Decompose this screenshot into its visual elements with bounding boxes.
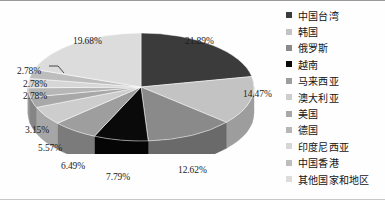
legend-item-label: 中国台湾 xyxy=(298,8,339,23)
chart-legend: 中国台湾韩国俄罗斯越南马来西亚澳大利亚美国德国印度尼西亚中国香港其他国家和地区 xyxy=(277,7,381,187)
legend-item-label: 澳大利亚 xyxy=(298,90,339,105)
legend-swatch-icon xyxy=(286,78,292,84)
legend-item[interactable]: 韩国 xyxy=(277,23,381,39)
chart-frame: 21.89%14.47%12.62%7.79%6.49%5.57%3.15%2.… xyxy=(0,0,385,200)
legend-item[interactable]: 马来西亚 xyxy=(277,73,381,89)
legend-item[interactable]: 澳大利亚 xyxy=(277,89,381,105)
legend-item-label: 德国 xyxy=(298,122,318,137)
legend-item[interactable]: 俄罗斯 xyxy=(277,40,381,56)
legend-item[interactable]: 中国香港 xyxy=(277,155,381,171)
pct-label-russia: 12.62% xyxy=(178,165,207,175)
legend-item[interactable]: 德国 xyxy=(277,122,381,138)
legend-swatch-icon xyxy=(286,61,292,67)
legend-item[interactable]: 印度尼西亚 xyxy=(277,138,381,154)
legend-item-label: 俄罗斯 xyxy=(298,40,329,55)
legend-item[interactable]: 越南 xyxy=(277,56,381,72)
legend-swatch-icon xyxy=(286,29,292,35)
legend-item[interactable]: 中国台湾 xyxy=(277,7,381,23)
legend-item-label: 韩国 xyxy=(298,24,318,39)
pct-label-others: 19.68% xyxy=(73,36,102,46)
legend-item-label: 越南 xyxy=(298,57,318,72)
pie-chart-area: 21.89%14.47%12.62%7.79%6.49%5.57%3.15%2.… xyxy=(0,3,278,199)
pct-label-hongkong: 2.78% xyxy=(17,66,41,76)
legend-swatch-icon xyxy=(286,45,292,51)
legend-swatch-icon xyxy=(286,143,292,149)
legend-item[interactable]: 其他国家和地区 xyxy=(277,171,381,187)
pct-label-vietnam: 7.79% xyxy=(106,172,130,182)
legend-item[interactable]: 美国 xyxy=(277,105,381,121)
pie-top-faces xyxy=(28,33,254,141)
pct-label-australia: 5.57% xyxy=(38,143,62,153)
pct-label-taiwan: 21.89% xyxy=(185,36,214,46)
pie-3d-graphic xyxy=(26,29,256,154)
pct-label-usa: 3.15% xyxy=(25,125,49,135)
legend-item-label: 印度尼西亚 xyxy=(298,139,349,154)
legend-swatch-icon xyxy=(286,94,292,100)
pct-label-malaysia: 6.49% xyxy=(61,161,85,171)
legend-item-label: 其他国家和地区 xyxy=(298,172,369,187)
legend-item-label: 马来西亚 xyxy=(298,73,339,88)
pie-svg xyxy=(26,29,256,154)
legend-swatch-icon xyxy=(286,176,292,182)
pct-label-korea: 14.47% xyxy=(243,89,272,99)
legend-swatch-icon xyxy=(286,12,292,18)
legend-swatch-icon xyxy=(286,111,292,117)
pct-label-indonesia: 2.78% xyxy=(23,79,47,89)
pct-label-germany: 2.78% xyxy=(23,91,47,101)
legend-swatch-icon xyxy=(286,127,292,133)
legend-swatch-icon xyxy=(286,160,292,166)
legend-item-label: 中国香港 xyxy=(298,155,339,170)
legend-item-label: 美国 xyxy=(298,106,318,121)
